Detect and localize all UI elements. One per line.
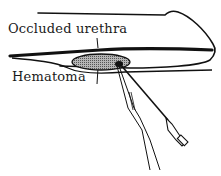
needle-hub-cap bbox=[177, 135, 188, 146]
urethra-leader-line bbox=[97, 38, 98, 48]
occluded-urethra-label: Occluded urethra bbox=[8, 22, 127, 35]
aspiration-needle bbox=[120, 64, 168, 120]
hematoma-label: Hematoma bbox=[12, 70, 86, 83]
surgical-instrument bbox=[117, 66, 160, 170]
diagram-canvas: Occluded urethra Hematoma bbox=[0, 0, 221, 176]
